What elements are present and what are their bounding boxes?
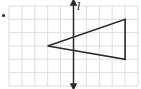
grid-figure xyxy=(0,0,141,89)
diagram: l xyxy=(0,0,141,89)
line-label: l xyxy=(77,1,81,12)
